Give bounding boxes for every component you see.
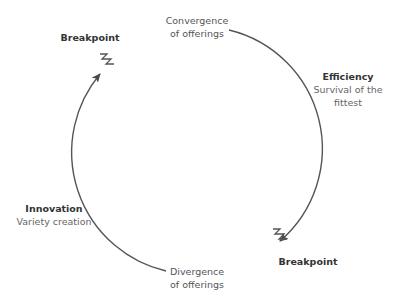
breakpoint-bottom-text: Breakpoint xyxy=(273,255,343,268)
divergence-label: Divergence of offerings xyxy=(170,265,235,291)
convergence-label: Convergence of offerings xyxy=(162,14,232,40)
divergence-line1: Divergence xyxy=(170,265,235,278)
efficiency-arc xyxy=(229,30,322,241)
innovation-heading: Innovation xyxy=(14,202,94,215)
convergence-line2: of offerings xyxy=(162,27,232,40)
breakpoint-bottom-label: Breakpoint xyxy=(273,255,343,268)
convergence-line1: Convergence xyxy=(162,14,232,27)
efficiency-line2: fittest xyxy=(308,96,388,109)
efficiency-heading: Efficiency xyxy=(308,70,388,83)
efficiency-label: Efficiency Survival of the fittest xyxy=(308,70,388,109)
innovation-line1: Variety creation xyxy=(14,215,94,228)
divergence-line2: of offerings xyxy=(170,278,235,291)
breakpoint-top-text: Breakpoint xyxy=(55,31,125,44)
breakpoint-zigzag-icon xyxy=(100,54,114,64)
breakpoint-top-label: Breakpoint xyxy=(55,31,125,44)
innovation-arc xyxy=(72,74,166,271)
innovation-label: Innovation Variety creation xyxy=(14,202,94,228)
efficiency-line1: Survival of the xyxy=(308,83,388,96)
